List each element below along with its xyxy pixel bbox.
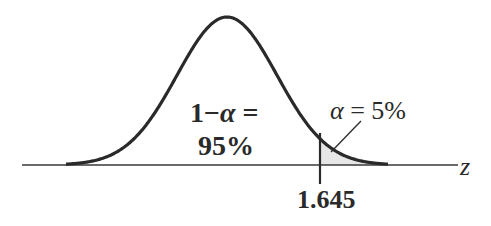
confidence-label-line2: 95% bbox=[198, 132, 254, 160]
alpha-symbol: α bbox=[330, 96, 344, 125]
alpha-symbol: α bbox=[220, 97, 236, 128]
normal-distribution-figure: 1−α = 95% α = 5% z 1.645 bbox=[0, 0, 491, 226]
confidence-label-line1: 1−α = bbox=[190, 99, 258, 127]
equals-sign: = bbox=[235, 97, 258, 128]
minus-sign: − bbox=[204, 97, 220, 128]
alpha-value-text: = 5% bbox=[344, 96, 406, 125]
rejection-region-shade bbox=[320, 139, 388, 165]
one-text: 1 bbox=[190, 97, 204, 128]
alpha-leader-line bbox=[331, 121, 361, 152]
alpha-label: α = 5% bbox=[330, 98, 406, 124]
z-axis-label: z bbox=[460, 154, 470, 180]
critical-value-label: 1.645 bbox=[297, 187, 356, 213]
